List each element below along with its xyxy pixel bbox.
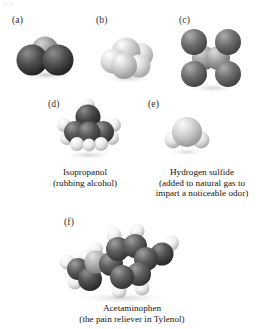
caption-acetaminophen: Acetaminophen (the pain reliever in Tyle…	[28, 303, 236, 324]
molecule-model-c	[180, 28, 248, 92]
molecule-model-e	[165, 112, 211, 156]
caption-line: Hydrogen sulfide	[140, 167, 264, 178]
panel-label-b: (b)	[96, 16, 108, 26]
molecule-model-a	[14, 30, 78, 80]
scan-artifact-text: y x	[4, 0, 13, 8]
caption-hydrogen-sulfide: Hydrogen sulfide (added to natural gas t…	[140, 167, 264, 199]
panel-label-a: (a)	[12, 16, 23, 26]
molecule-model-d	[55, 103, 125, 161]
molecule-model-b	[96, 30, 162, 84]
caption-line: (rubbing alcohol)	[30, 178, 140, 189]
caption-line: (added to natural gas to	[140, 178, 264, 189]
caption-line: Acetaminophen	[28, 303, 236, 314]
panel-label-c: (c)	[179, 16, 190, 26]
caption-line: Isopropanol	[30, 167, 140, 178]
molecule-model-f	[61, 222, 189, 306]
caption-isopropanol: Isopropanol (rubbing alcohol)	[30, 167, 140, 188]
molecular-models-figure: y x (a) (b)	[0, 0, 264, 329]
caption-line: impart a noticeable odor)	[140, 188, 264, 199]
caption-line: (the pain reliever in Tylenol)	[28, 314, 236, 325]
panel-label-e: (e)	[148, 100, 159, 110]
